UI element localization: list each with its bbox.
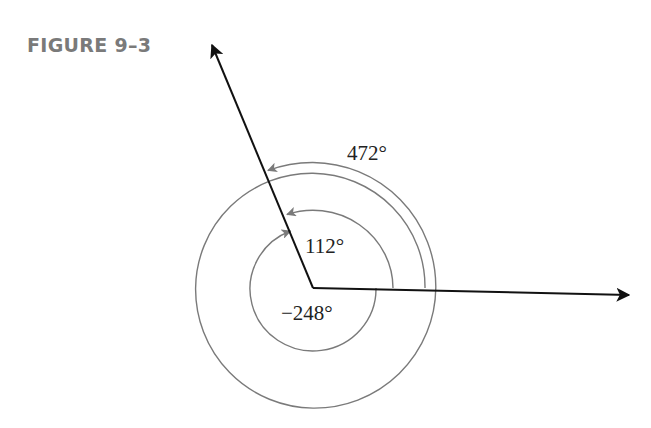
label-neg-248: −248° (281, 301, 333, 325)
arc-472 (196, 162, 436, 408)
label-472: 472° (347, 141, 387, 165)
label-112: 112° (305, 234, 344, 258)
coterminal-angles-diagram: 472° 112° −248° (0, 0, 651, 428)
initial-side-ray (313, 288, 629, 295)
